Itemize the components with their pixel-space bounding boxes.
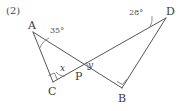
vertex-label-A: A (28, 20, 36, 31)
segment-D-B (122, 18, 166, 88)
vertex-label-B: B (118, 93, 126, 104)
angle-label-A: 35° (50, 27, 64, 35)
angle-label-C: x (60, 64, 65, 73)
vertex-label-P: P (75, 71, 82, 82)
vertex-label-C: C (48, 86, 56, 97)
vertex-label-D: D (166, 6, 175, 17)
angle-label-D: 28° (129, 9, 143, 17)
angle-arc-D (150, 16, 152, 27)
geometry-canvas (0, 0, 188, 111)
right-angle-marks (49, 73, 127, 85)
problem-number: (2) (6, 6, 20, 16)
segment-C-D (53, 18, 166, 82)
angle-label-P: y (88, 61, 93, 70)
geometry-figure: (2) A C P B D 35° 28° x y (0, 0, 188, 111)
